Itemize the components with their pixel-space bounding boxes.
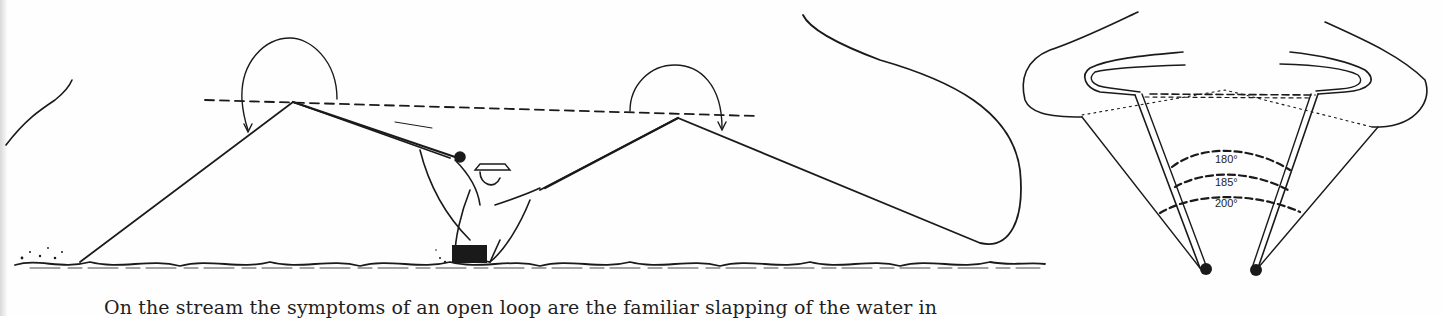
splash-spray: [21, 247, 447, 263]
arc-diagram: [1023, 12, 1426, 276]
angler-figure: [420, 150, 540, 263]
rod-forward: [545, 118, 678, 188]
line-fragment-left: [6, 80, 72, 145]
forward-cast-line: [540, 15, 1021, 244]
dashed-reference-line: [205, 100, 755, 116]
rotation-arc-left: [242, 38, 337, 130]
back-cast-line: [80, 102, 450, 262]
angle-label-185: 185°: [1215, 176, 1238, 188]
body-text: On the stream the symptoms of an open lo…: [104, 296, 937, 318]
motion-streak: [395, 122, 432, 128]
angle-label-180: 180°: [1215, 153, 1238, 165]
rod-back: [293, 102, 455, 157]
water-surface: [15, 262, 1045, 266]
angle-label-200: 200°: [1215, 197, 1238, 209]
